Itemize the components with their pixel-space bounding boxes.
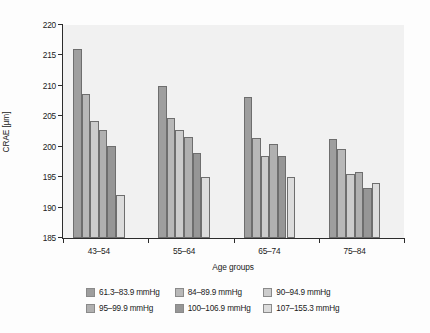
legend-item: 61.3–83.9 mmHg [86,288,175,297]
y-axis-tick-label: 220 [43,20,56,30]
y-axis-tick [58,24,63,25]
bar [363,188,372,239]
legend-label: 95–99.9 mmHg [99,304,153,313]
x-axis-tick [234,238,235,243]
bar [82,94,91,238]
legend-label: 100–106.9 mmHg [188,304,251,313]
y-axis-tick-label: 200 [43,142,56,152]
bar [261,156,270,238]
legend-swatch [263,288,272,297]
bar [269,144,278,238]
legend-item: 107–155.3 mmHg [263,304,352,313]
x-axis-title: Age groups [62,262,404,272]
bar [175,130,184,238]
y-axis-tick-label: 210 [43,81,56,91]
bar [73,49,82,238]
legend-swatch [86,304,95,313]
legend-swatch [175,304,184,313]
legend-swatch [263,304,272,313]
plot-area: 18519019520020521021522043–5455–6465–747… [62,25,404,239]
y-axis-tick [58,85,63,86]
y-axis-tick [58,146,63,147]
bar [107,146,116,239]
bar [355,172,364,238]
y-axis-tick [58,207,63,208]
chart-legend: 61.3–83.9 mmHg84–89.9 mmHg90–94.9 mmHg95… [86,284,352,316]
x-axis-group-label: 65–74 [258,246,280,256]
x-axis-tick [404,238,405,243]
legend-label: 107–155.3 mmHg [276,304,339,313]
y-axis-tick [58,54,63,55]
bar [329,139,338,238]
y-axis-tick [58,115,63,116]
y-axis-tick-label: 215 [43,50,56,60]
legend-item: 84–89.9 mmHg [175,288,264,297]
bar [116,195,125,238]
bar [244,97,253,238]
y-axis-tick-label: 205 [43,111,56,121]
bar [372,183,381,238]
x-axis-tick [63,238,64,243]
legend-item: 100–106.9 mmHg [175,304,264,313]
x-axis-tick [148,238,149,243]
x-axis-group-label: 55–64 [173,246,195,256]
bar [99,130,108,238]
legend-label: 84–89.9 mmHg [188,288,242,297]
y-axis-tick-label: 195 [43,172,56,182]
bar [201,177,210,238]
bar [90,121,99,238]
bar [346,174,355,238]
legend-item: 90–94.9 mmHg [263,288,352,297]
legend-swatch [86,288,95,297]
legend-swatch [175,288,184,297]
x-axis-tick [319,238,320,243]
bar [167,118,176,238]
y-axis-tick-label: 185 [43,233,56,243]
x-axis-group-label: 75–84 [344,246,366,256]
y-axis-title: CRAE [µm] [1,112,11,153]
y-axis-tick-label: 190 [43,203,56,213]
legend-item: 95–99.9 mmHg [86,304,175,313]
chart-figure: 18519019520020521021522043–5455–6465–747… [0,0,430,333]
bar [158,86,167,238]
bar [193,153,202,238]
x-axis-group-label: 43–54 [88,246,110,256]
legend-label: 90–94.9 mmHg [276,288,330,297]
bar [184,137,193,238]
bar [278,156,287,238]
bar [287,177,296,238]
bar [252,138,261,238]
legend-label: 61.3–83.9 mmHg [99,288,160,297]
y-axis-tick [58,176,63,177]
bar [337,149,346,238]
